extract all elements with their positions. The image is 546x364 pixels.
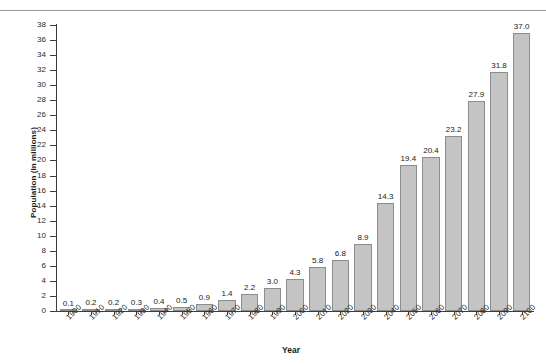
bar-value-label: 20.4 [417, 147, 445, 155]
y-axis-tick [50, 191, 56, 192]
bar-value-label: 27.9 [462, 91, 490, 99]
y-axis-tick [50, 160, 56, 161]
y-axis-tick [50, 40, 56, 41]
population-bar-chart: Population (in millions) Year 0246810121… [0, 0, 546, 364]
y-axis-tick-label: 4 [14, 277, 46, 285]
y-axis-tick [50, 296, 56, 297]
y-axis-tick-label: 30 [14, 81, 46, 89]
y-axis-tick [50, 130, 56, 131]
y-axis-tick-label: 26 [14, 111, 46, 119]
y-axis-tick-label: 0 [14, 307, 46, 315]
bar-value-label: 4.3 [281, 269, 309, 277]
y-axis-tick-label: 34 [14, 51, 46, 59]
y-axis-tick [50, 55, 56, 56]
bar [468, 101, 485, 311]
y-axis-tick [50, 85, 56, 86]
y-axis-tick-label: 2 [14, 292, 46, 300]
y-axis-tick [50, 206, 56, 207]
y-axis-tick [50, 100, 56, 101]
y-axis-tick [50, 266, 56, 267]
bar-value-label: 6.8 [326, 250, 354, 258]
bar [354, 244, 371, 311]
y-axis-tick-label: 12 [14, 217, 46, 225]
y-axis-tick [50, 115, 56, 116]
y-axis-tick-label: 14 [14, 202, 46, 210]
bar [400, 165, 417, 311]
y-axis-tick-label: 8 [14, 247, 46, 255]
y-axis-tick-label: 20 [14, 156, 46, 164]
bar-value-label: 5.8 [304, 257, 332, 265]
y-axis-tick [50, 251, 56, 252]
y-axis-tick [50, 311, 56, 312]
y-axis-tick-label: 28 [14, 96, 46, 104]
y-axis-tick-label: 22 [14, 141, 46, 149]
y-axis-tick-label: 10 [14, 232, 46, 240]
y-axis-tick-label: 38 [14, 21, 46, 29]
bar-value-label: 8.9 [349, 234, 377, 242]
y-axis-tick-label: 6 [14, 262, 46, 270]
bar-value-label: 31.8 [485, 62, 513, 70]
y-axis-tick [50, 236, 56, 237]
bar-value-label: 19.4 [394, 155, 422, 163]
bar [377, 203, 394, 311]
x-axis-title: Year [0, 345, 546, 355]
bar-value-label: 37.0 [508, 23, 536, 31]
bar [513, 33, 530, 311]
y-axis-tick-label: 24 [14, 126, 46, 134]
y-axis-tick-label: 32 [14, 66, 46, 74]
y-axis-ticks: 02468101214161820222426283032343638 [0, 0, 56, 364]
y-axis-tick-label: 18 [14, 172, 46, 180]
y-axis-tick [50, 281, 56, 282]
bar [445, 136, 462, 311]
y-axis-tick-label: 36 [14, 36, 46, 44]
bar [490, 72, 507, 311]
bar [422, 157, 439, 311]
y-axis-tick [50, 70, 56, 71]
bar-value-label: 3.0 [258, 278, 286, 286]
y-axis-tick [50, 145, 56, 146]
y-axis-tick [50, 176, 56, 177]
y-axis-tick [50, 221, 56, 222]
y-axis-tick-label: 16 [14, 187, 46, 195]
bar-value-label: 14.3 [372, 193, 400, 201]
plot-area: 0.10.20.20.30.40.50.91.42.23.04.35.86.88… [57, 25, 533, 311]
bar-value-label: 23.2 [440, 126, 468, 134]
y-axis-tick [50, 25, 56, 26]
